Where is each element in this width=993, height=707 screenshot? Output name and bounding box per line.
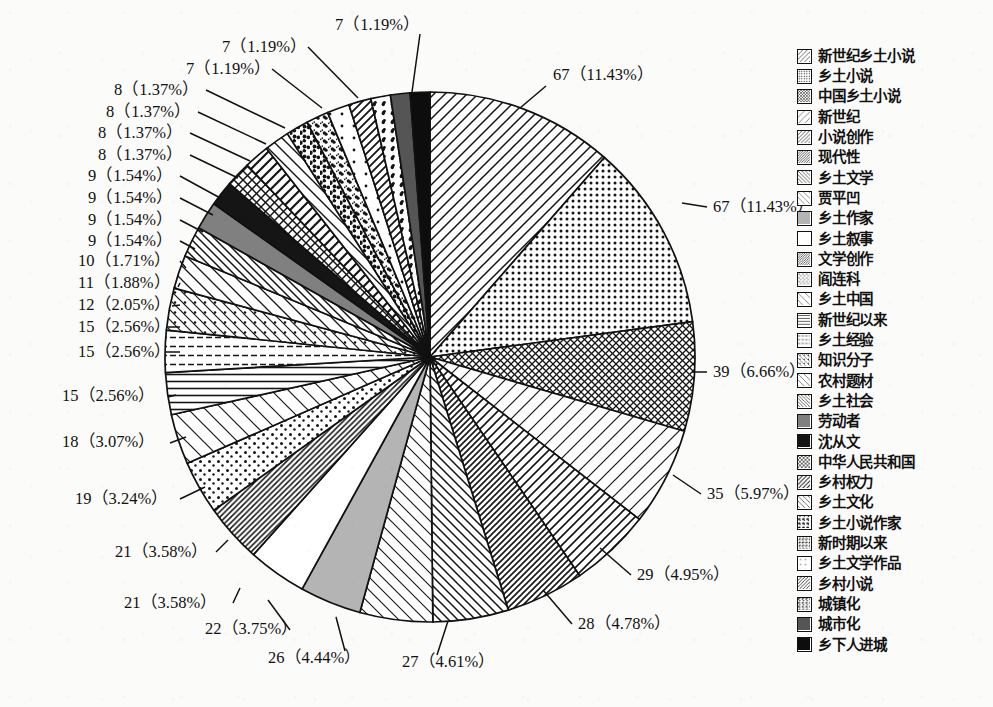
data-label: 9（1.54%） xyxy=(88,166,173,185)
legend-item[interactable]: 乡土文化 xyxy=(797,493,989,513)
legend-item-label: 劳动者 xyxy=(818,414,859,429)
legend-item[interactable]: 新世纪乡土小说 xyxy=(797,46,989,66)
legend-item-label: 乡村小说 xyxy=(818,577,873,592)
legend-swatch-icon xyxy=(797,434,812,449)
legend-item[interactable]: 城市化 xyxy=(797,614,989,634)
legend-item[interactable]: 小说创作 xyxy=(797,127,989,147)
legend-item[interactable]: 新世纪 xyxy=(797,107,989,127)
data-label: 35（5.97%） xyxy=(707,484,800,503)
legend-item[interactable]: 劳动者 xyxy=(797,411,989,431)
legend-swatch-icon xyxy=(797,495,812,510)
data-label: 7（1.19%） xyxy=(222,37,307,56)
leader-line xyxy=(308,47,358,98)
leader-line xyxy=(412,34,420,92)
leader-line xyxy=(190,133,250,161)
data-label: 21（3.58%） xyxy=(124,593,217,612)
legend-item[interactable]: 乡土中国 xyxy=(797,290,989,310)
legend-item[interactable]: 沈从文 xyxy=(797,432,989,452)
legend-item[interactable]: 城镇化 xyxy=(797,594,989,614)
data-label: 10（1.71%） xyxy=(78,251,171,270)
legend-item[interactable]: 乡土叙事 xyxy=(797,229,989,249)
legend-swatch-icon xyxy=(797,597,812,612)
legend-item[interactable]: 乡土小说 xyxy=(797,66,989,86)
leader-line xyxy=(180,487,205,499)
legend-item[interactable]: 乡土作家 xyxy=(797,208,989,228)
data-label: 9（1.54%） xyxy=(88,188,173,207)
legend-item-label: 乡村权力 xyxy=(818,475,873,490)
legend-item[interactable]: 贾平凹 xyxy=(797,188,989,208)
legend-item[interactable]: 中国乡土小说 xyxy=(797,87,989,107)
legend-item[interactable]: 乡村小说 xyxy=(797,574,989,594)
legend-swatch-icon xyxy=(797,292,812,307)
legend-item[interactable]: 乡下人进城 xyxy=(797,635,989,655)
legend-item[interactable]: 新世纪以来 xyxy=(797,310,989,330)
legend-item-label: 乡土中国 xyxy=(818,292,873,307)
legend-item-label: 文学创作 xyxy=(818,252,873,267)
leader-line xyxy=(180,198,213,215)
leader-line xyxy=(543,590,572,624)
data-label: 28（4.78%） xyxy=(578,614,671,633)
legend-swatch-icon xyxy=(797,272,812,287)
legend-item[interactable]: 中华人民共和国 xyxy=(797,452,989,472)
legend-item-label: 乡土叙事 xyxy=(818,232,873,247)
data-label: 9（1.54%） xyxy=(88,210,173,229)
legend-swatch-icon xyxy=(797,49,812,64)
legend-item[interactable]: 新时期以来 xyxy=(797,533,989,553)
legend-item[interactable]: 乡土经验 xyxy=(797,330,989,350)
legend-swatch-icon xyxy=(797,515,812,530)
data-label: 29（4.95%） xyxy=(637,565,730,584)
data-label: 39（6.66%） xyxy=(713,362,806,381)
data-label: 15（2.56%） xyxy=(78,342,171,361)
legend-item-label: 现代性 xyxy=(818,150,859,165)
legend-item-label: 乡土社会 xyxy=(818,394,873,409)
data-label: 22（3.75%） xyxy=(205,619,298,638)
pie-slices-group xyxy=(165,92,695,622)
data-label: 15（2.56%） xyxy=(62,386,155,405)
legend-swatch-icon xyxy=(797,576,812,591)
legend-swatch-icon xyxy=(797,556,812,571)
legend-item-label: 小说创作 xyxy=(818,130,873,145)
legend-item[interactable]: 农村题材 xyxy=(797,371,989,391)
leader-line xyxy=(272,69,322,108)
legend-item-label: 贾平凹 xyxy=(818,191,859,206)
data-label: 18（3.07%） xyxy=(62,432,155,451)
legend-item-label: 中华人民共和国 xyxy=(818,455,915,470)
chart-legend: 新世纪乡土小说乡土小说中国乡土小说新世纪小说创作现代性乡土文学贾平凹乡土作家乡土… xyxy=(797,46,989,655)
legend-item[interactable]: 乡土文学作品 xyxy=(797,553,989,573)
legend-item[interactable]: 乡土小说作家 xyxy=(797,513,989,533)
legend-item[interactable]: 阎连科 xyxy=(797,269,989,289)
legend-item-label: 农村题材 xyxy=(818,374,873,389)
legend-swatch-icon xyxy=(797,333,812,348)
legend-item[interactable]: 乡村权力 xyxy=(797,472,989,492)
legend-item-label: 乡土文学作品 xyxy=(818,556,901,571)
legend-swatch-icon xyxy=(797,637,812,652)
legend-swatch-icon xyxy=(797,252,812,267)
leader-line xyxy=(520,86,546,108)
legend-swatch-icon xyxy=(797,130,812,145)
legend-swatch-icon xyxy=(797,211,812,226)
legend-swatch-icon xyxy=(797,455,812,470)
legend-swatch-icon xyxy=(797,150,812,165)
data-label: 27（4.61%） xyxy=(402,652,495,671)
legend-item-label: 新世纪 xyxy=(818,110,859,125)
legend-item[interactable]: 知识分子 xyxy=(797,350,989,370)
legend-item[interactable]: 现代性 xyxy=(797,147,989,167)
legend-item[interactable]: 乡土文学 xyxy=(797,168,989,188)
legend-item-label: 乡土小说作家 xyxy=(818,516,901,531)
legend-swatch-icon xyxy=(797,353,812,368)
legend-item[interactable]: 乡土社会 xyxy=(797,391,989,411)
leader-line xyxy=(190,155,238,178)
legend-swatch-icon xyxy=(797,414,812,429)
legend-item-label: 乡土作家 xyxy=(818,211,873,226)
data-label: 8（1.37%） xyxy=(106,102,191,121)
data-label: 7（1.19%） xyxy=(335,15,420,34)
leader-line xyxy=(682,203,707,207)
pie-chart-figure: 67（11.43%）67（11.43%）39（6.66%）35（5.97%）29… xyxy=(0,0,993,707)
data-label: 8（1.37%） xyxy=(98,123,183,142)
legend-item-label: 乡土小说 xyxy=(818,69,873,84)
legend-swatch-icon xyxy=(797,313,812,328)
leader-line xyxy=(180,176,222,199)
legend-item[interactable]: 文学创作 xyxy=(797,249,989,269)
legend-item-label: 乡下人进城 xyxy=(818,638,887,653)
leader-line xyxy=(437,621,448,655)
